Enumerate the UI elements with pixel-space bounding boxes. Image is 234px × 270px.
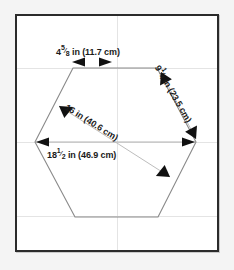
top-side-numerator: 5 (61, 44, 65, 51)
width-arrow-right-icon (182, 137, 195, 146)
side-arrow-bottom-icon (185, 126, 197, 139)
width-arrow-left-icon (36, 137, 49, 146)
width-dimension-label: 181⁄2 in (46.9 cm) (47, 147, 116, 160)
diagonal-arrow-lower-icon (156, 165, 170, 177)
top-side-metric: (11.7 cm) (82, 47, 120, 57)
width-denominator: 2 (62, 153, 66, 160)
diagram-canvas: 45⁄8 in (11.7 cm) 91⁄4 in (23.5 cm) 16 i… (0, 0, 234, 270)
top-side-dimension-label: 45⁄8 in (11.7 cm) (56, 44, 120, 57)
width-metric: (46.9 cm) (78, 150, 116, 160)
top-arrow-right-icon (99, 57, 112, 66)
top-side-unit: in (72, 47, 80, 57)
top-side-denominator: 8 (66, 50, 70, 57)
width-fraction: 1⁄2 (57, 147, 66, 160)
width-whole-number: 18 (47, 150, 57, 160)
width-unit: in (68, 150, 76, 160)
top-side-fraction: 5⁄8 (61, 44, 70, 57)
width-numerator: 1 (57, 147, 61, 154)
top-arrow-left-icon (72, 57, 85, 66)
